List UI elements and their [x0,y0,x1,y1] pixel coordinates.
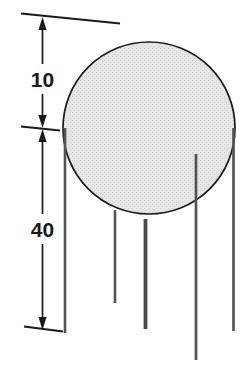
top-extension-line [21,14,120,24]
upper-dimension-group: 10 [24,17,61,128]
bottom-extension-line [24,327,63,332]
middle-extension-line [21,127,60,131]
lower-dimension-label: 40 [31,218,54,241]
upper-dimension-label: 10 [31,68,54,91]
drawing-canvas: 10 40 [0,0,251,375]
tank-body-circle [63,42,235,214]
upper-dimension-arrow-up-icon [38,17,46,30]
upper-dimension-arrow-down-icon [38,115,46,128]
lower-dimension-arrow-up-icon [38,129,46,142]
lower-dimension-group: 40 [24,129,61,330]
engineering-drawing-figure: 10 40 [0,0,251,375]
